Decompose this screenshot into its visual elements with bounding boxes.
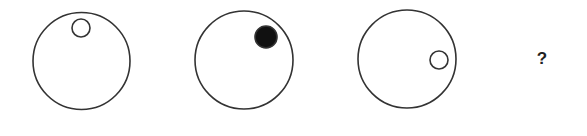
- inner-circle-filled: [255, 26, 277, 48]
- figure-3: [358, 10, 456, 108]
- question-mark: ?: [534, 49, 550, 69]
- inner-circle-hollow: [430, 51, 448, 69]
- inner-circle-hollow: [72, 19, 90, 37]
- figure-1: [33, 13, 130, 110]
- puzzle-sequence: [0, 0, 587, 136]
- outer-circle: [33, 13, 130, 110]
- outer-circle: [195, 11, 293, 109]
- outer-circle: [358, 10, 456, 108]
- figure-2: [195, 11, 293, 109]
